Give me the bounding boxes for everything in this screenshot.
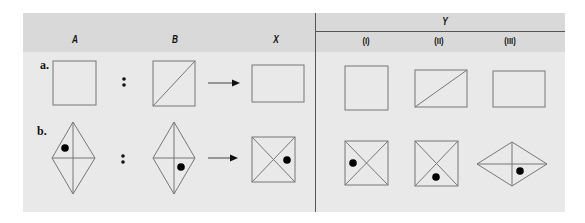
row-b-figure-a-diamond bbox=[52, 122, 95, 194]
dot-icon bbox=[432, 173, 440, 181]
dot-icon bbox=[349, 159, 357, 167]
row-b-figure-b-diamond bbox=[153, 122, 195, 194]
row-a-figure-a-square bbox=[53, 61, 96, 105]
dot-icon bbox=[61, 144, 69, 152]
diagram-figures bbox=[0, 0, 585, 223]
row-a-figure-x-rectangle bbox=[252, 65, 304, 102]
dot-icon bbox=[516, 167, 524, 175]
ratio-colon-icon bbox=[121, 154, 125, 164]
row-b-figure-y3-wide-diamond bbox=[477, 142, 547, 186]
arrow-right-icon bbox=[208, 155, 238, 162]
dot-icon bbox=[177, 163, 185, 171]
row-a-figure-y3-rectangle bbox=[493, 71, 545, 107]
dot-icon bbox=[283, 156, 291, 164]
row-a-figure-b-square-diagonal bbox=[153, 61, 195, 106]
ratio-colon-icon bbox=[122, 77, 126, 87]
row-a-figure-y2-rectangle-diagonal bbox=[415, 70, 467, 107]
row-a-figure-y1-square bbox=[345, 66, 388, 110]
arrow-right-icon bbox=[208, 80, 240, 87]
